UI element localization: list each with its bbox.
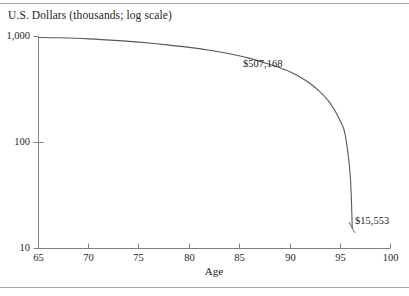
x-tick-label-70: 70 bbox=[73, 252, 104, 263]
y-tick-label-1000: 1,000 bbox=[0, 30, 30, 41]
x-tick-label-90: 90 bbox=[275, 252, 306, 263]
x-tick-label-95: 95 bbox=[325, 252, 356, 263]
annotation-lower-value: $15,553 bbox=[355, 215, 389, 226]
x-axis-title: Age bbox=[38, 265, 390, 277]
x-tick-label-65: 65 bbox=[23, 252, 54, 263]
x-tick-label-80: 80 bbox=[174, 252, 205, 263]
x-tick-label-100: 100 bbox=[375, 252, 406, 263]
annotation-upper-value: $507,168 bbox=[243, 58, 282, 69]
wealth-decline-curve bbox=[39, 37, 353, 228]
x-tick-label-75: 75 bbox=[123, 252, 154, 263]
y-tick-label-100: 100 bbox=[0, 136, 30, 147]
x-tick-label-85: 85 bbox=[224, 252, 255, 263]
